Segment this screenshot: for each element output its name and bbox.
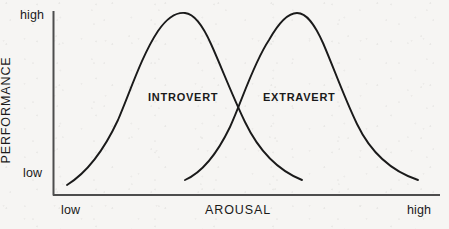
chart-plot-area xyxy=(0,0,449,229)
x-axis-title: AROUSAL xyxy=(205,204,271,217)
y-axis-high-label: high xyxy=(20,9,44,22)
x-axis-high-label: high xyxy=(407,204,431,217)
x-axis-low-label: low xyxy=(61,204,80,217)
extravert-curve-label: EXTRAVERT xyxy=(263,92,336,103)
y-axis-low-label: low xyxy=(23,167,42,180)
chart-container: high low PERFORMANCE low AROUSAL high IN… xyxy=(0,0,449,229)
y-axis-title: PERFORMANCE xyxy=(0,55,13,165)
introvert-curve-label: INTROVERT xyxy=(148,92,218,103)
